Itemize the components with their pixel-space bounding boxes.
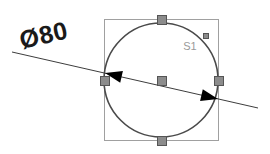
grip-top[interactable] xyxy=(157,15,166,24)
cad-vector-layer: Ø80 S1 xyxy=(0,0,270,154)
dimension-label[interactable]: Ø80 xyxy=(17,16,71,54)
grip-right[interactable] xyxy=(214,76,223,85)
grip-left[interactable] xyxy=(100,76,109,85)
grip-quadrant-upper-right[interactable] xyxy=(203,33,208,38)
cad-drawing-canvas[interactable]: Ø80 S1 xyxy=(0,0,270,154)
entity-label-s1[interactable]: S1 xyxy=(183,40,196,52)
grip-bottom[interactable] xyxy=(157,136,166,145)
grip-center[interactable] xyxy=(157,76,166,85)
